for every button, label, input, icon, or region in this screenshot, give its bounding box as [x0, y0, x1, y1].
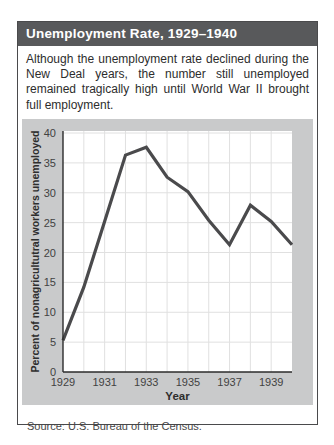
svg-text:1929: 1929 — [51, 376, 75, 388]
svg-text:35: 35 — [44, 157, 56, 169]
svg-text:20: 20 — [44, 246, 56, 258]
unemployment-line-chart: 0510152025303540192919311933193519371939… — [22, 119, 313, 405]
svg-text:10: 10 — [44, 306, 56, 318]
svg-text:15: 15 — [44, 276, 56, 288]
figure-card: Unemployment Rate, 1929–1940 Although th… — [17, 21, 318, 425]
svg-text:1939: 1939 — [259, 376, 283, 388]
svg-text:1937: 1937 — [217, 376, 241, 388]
source-note: Source: U.S. Bureau of the Census. — [18, 420, 317, 432]
svg-text:1933: 1933 — [134, 376, 158, 388]
svg-text:Percent of nonagricultutral wo: Percent of nonagricultutral workers unem… — [29, 130, 41, 372]
chart-panel: 0510152025303540192919311933193519371939… — [22, 119, 313, 405]
svg-text:1935: 1935 — [176, 376, 200, 388]
svg-text:25: 25 — [44, 216, 56, 228]
figure-description: Although the unemployment rate declined … — [18, 46, 317, 119]
figure-title: Unemployment Rate, 1929–1940 — [18, 22, 317, 46]
svg-text:40: 40 — [44, 127, 56, 139]
svg-text:1931: 1931 — [92, 376, 116, 388]
svg-text:Year: Year — [165, 390, 190, 402]
svg-text:30: 30 — [44, 187, 56, 199]
svg-text:5: 5 — [50, 336, 56, 348]
